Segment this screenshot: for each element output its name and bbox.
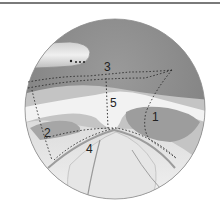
label-1: 1	[152, 110, 159, 124]
label-5: 5	[110, 96, 117, 110]
endoscopic-illustration: 1 2 3 4 5	[0, 0, 220, 219]
scope-view	[20, 14, 210, 214]
label-4: 4	[86, 142, 93, 156]
label-3: 3	[104, 60, 111, 74]
label-2: 2	[44, 126, 51, 140]
